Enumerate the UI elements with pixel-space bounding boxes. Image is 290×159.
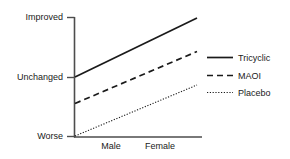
y-tick-label-improved: Improved xyxy=(0,12,63,22)
x-tick-label-male: Male xyxy=(86,141,136,151)
series-line-maoi xyxy=(75,52,197,104)
legend-label-maoi: MAOI xyxy=(238,71,261,81)
series-line-tricyclic xyxy=(75,18,197,77)
line-chart: Improved Unchanged Worse Male Female Tri… xyxy=(0,0,290,159)
legend-label-tricyclic: Tricyclic xyxy=(238,53,270,63)
y-tick-label-unchanged: Unchanged xyxy=(0,72,63,82)
y-tick-label-worse: Worse xyxy=(0,131,63,141)
series-line-placebo xyxy=(75,85,197,136)
x-tick-label-female: Female xyxy=(135,141,185,151)
legend-label-placebo: Placebo xyxy=(238,88,271,98)
